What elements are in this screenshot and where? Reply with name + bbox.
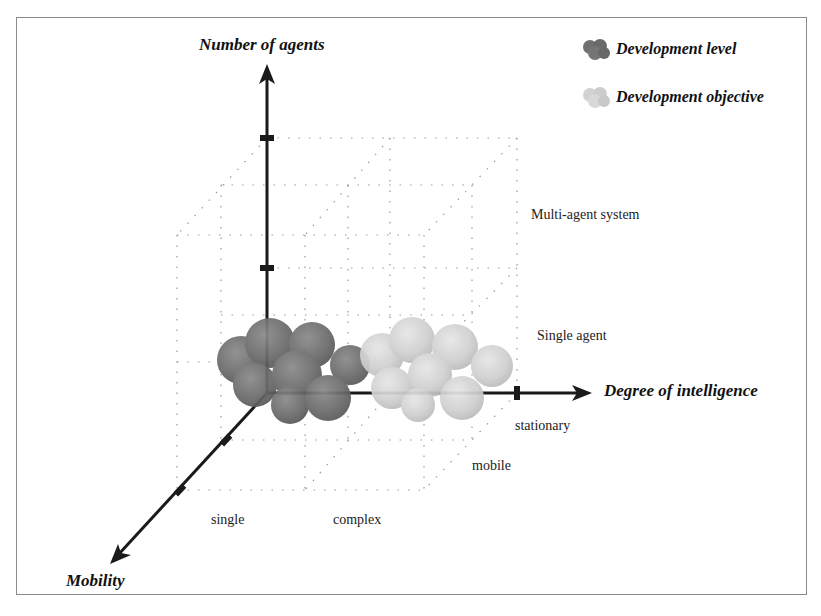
level-label-complex: complex [333,512,381,528]
axes [110,64,592,564]
legend-label: Development level [616,40,736,58]
depth-axis [118,393,267,555]
light-ball-cluster-icon [580,85,612,109]
level-label-mobile: mobile [472,458,511,474]
legend-label: Development objective [616,88,764,106]
development-level-cluster [217,318,370,424]
vertical-axis-tick [260,265,274,271]
legend-development-level: Development level [580,37,736,61]
vertical-axis-tick [260,135,274,141]
legend-development-objective: Development objective [580,85,764,109]
vertical-axis-title: Number of agents [199,35,325,55]
horizontal-axis-tick [514,386,520,400]
level-label-stationary: stationary [515,418,570,434]
dark-ball-cluster-icon [580,37,612,61]
development-objective-cluster [360,317,513,422]
depth-axis-arrowhead [110,544,131,564]
horizontal-axis-title: Degree of intelligence [604,381,758,401]
depth-axis-title: Mobility [66,571,125,591]
level-label-single-agent: Single agent [537,328,607,344]
level-label-multi-agent: Multi-agent system [531,207,640,223]
level-label-single: single [211,512,244,528]
